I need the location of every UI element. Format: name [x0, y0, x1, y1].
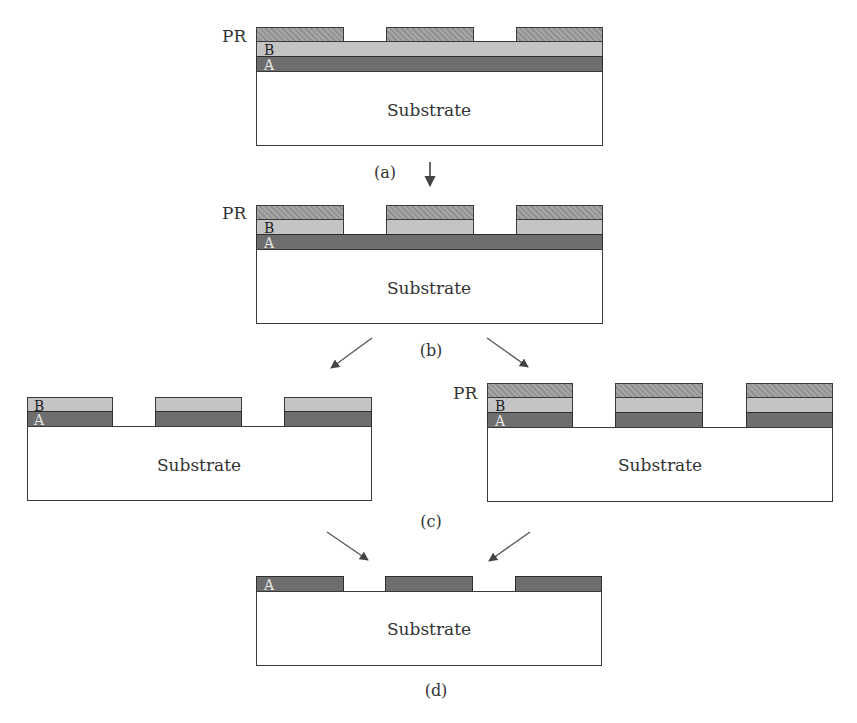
arrow-b-to-c-left — [331, 338, 372, 368]
process-arrows — [0, 0, 857, 723]
arrow-c-right-to-d — [489, 532, 530, 561]
arrow-b-to-c-right — [487, 338, 528, 367]
arrow-c-left-to-d — [327, 532, 368, 560]
